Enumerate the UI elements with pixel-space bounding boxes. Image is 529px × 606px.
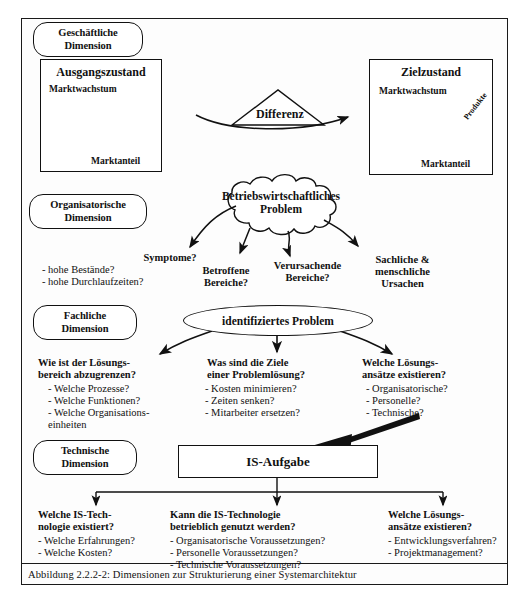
figure-caption-bar: Abbildung 2.2.2-2: Dimensionen zur Struk… xyxy=(21,563,508,585)
ausgangszustand-x-axis-label: Marktanteil xyxy=(91,156,140,166)
dimension-pill-fachliche: Fachliche Dimension xyxy=(33,305,137,340)
org-branch-verursachende-heading: Verursachende Bereiche? xyxy=(255,260,360,284)
tech-branch-2-item-1: - Projektmanagement? xyxy=(388,547,523,560)
func-branch-2-item-2: - Technische? xyxy=(366,407,506,420)
func-branch-0-item-2: - Welche Organisations- xyxy=(48,407,208,420)
is-aufgabe-node: IS-Aufgabe xyxy=(178,445,378,478)
figure-caption-text: Abbildung 2.2.2-2: Dimensionen zur Struk… xyxy=(21,569,357,580)
ausgangszustand-title: Ausgangszustand xyxy=(41,65,161,80)
tech-branch-2-item-0: - Entwicklungsverfahren? xyxy=(388,535,523,548)
func-branch-2-item-0: - Organisatorische? xyxy=(366,383,506,396)
dimension-pill-organisatorische: Organisatorische Dimension xyxy=(29,194,147,229)
func-branch-2-item-1: - Personelle? xyxy=(366,395,506,408)
cloud-text-wrapper: Betriebswirtschaftliches Problem xyxy=(221,190,341,216)
tech-branch-0-item-0: - Welche Erfahrungen? xyxy=(38,535,168,548)
tech-branch-1-item-1: - Personelle Voraussetzungen? xyxy=(170,547,380,560)
identifiziertes-problem-node: identifiziertes Problem xyxy=(183,305,373,336)
org-branch-symptome-heading: Symptome? xyxy=(125,252,215,264)
tech-branch-2-heading: Welche Lösungs- ansätze existieren? xyxy=(388,509,518,533)
tech-branch-0-item-1: - Welche Kosten? xyxy=(38,547,168,560)
figure-page: Geschäftliche Dimension Organisatorische… xyxy=(0,0,529,606)
zielzustand-y-axis-label: Marktwachstum xyxy=(379,86,447,96)
zielzustand-chart: Zielzustand xyxy=(369,59,493,175)
zielzustand-x-axis-label: Marktanteil xyxy=(421,159,470,169)
func-branch-0-item-1: - Welche Funktionen? xyxy=(48,395,208,408)
func-branch-0-item-0: - Welche Prozesse? xyxy=(48,383,208,396)
is-aufgabe-label: IS-Aufgabe xyxy=(246,454,310,470)
identifiziertes-problem-label: identifiziertes Problem xyxy=(222,315,334,327)
dimension-pill-technische: Technische Dimension xyxy=(33,440,137,475)
org-branch-ursachen-heading: Sachliche & menschliche Ursachen xyxy=(355,254,450,291)
betriebswirtschaftliches-problem-label: Betriebswirtschaftliches Problem xyxy=(221,190,341,216)
tech-branch-0-heading: Welche IS-Tech- nologie existiert? xyxy=(38,509,158,533)
func-branch-0-item-3: einheiten xyxy=(48,419,208,432)
func-branch-1-item-0: - Kosten minimieren? xyxy=(205,383,355,396)
zielzustand-title: Zielzustand xyxy=(370,65,492,80)
ausgangszustand-y-axis-label: Marktwachstum xyxy=(49,84,117,94)
func-branch-1-heading: Was sind die Ziele einer Problemlösung? xyxy=(207,357,357,381)
func-branch-1-item-1: - Zeiten senken? xyxy=(205,395,355,408)
func-branch-2-heading: Welche Lösungs- ansätze existieren? xyxy=(362,357,502,381)
func-branch-0-heading: Wie ist der Lösungs- bereich abzugrenzen… xyxy=(38,357,188,381)
differenz-label: Differenz xyxy=(240,108,320,120)
dimension-pill-geschaeftliche: Geschäftliche Dimension xyxy=(33,22,143,57)
tech-branch-1-heading: Kann die IS-Technologie betrieblich genu… xyxy=(170,509,380,533)
tech-branch-1-item-0: - Organisatorische Voraussetzungen? xyxy=(170,535,380,548)
func-branch-1-item-2: - Mitarbeiter ersetzen? xyxy=(205,407,355,420)
